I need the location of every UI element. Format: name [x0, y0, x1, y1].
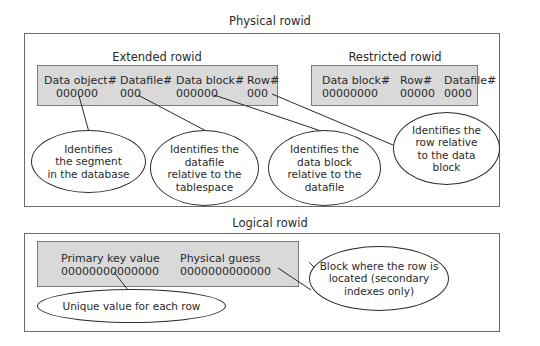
field-row: Row# 000 — [247, 74, 279, 100]
field-data-object: Data object# 000000 — [44, 74, 114, 100]
field-value: 00000000 — [322, 87, 390, 100]
field-label: Datafile# — [120, 74, 172, 87]
field-r-data-block: Data block# 00000000 — [322, 74, 390, 100]
field-value: 000000 — [44, 87, 114, 100]
field-label: Data object# — [44, 74, 117, 87]
field-physical-guess: Physical guess 0000000000000 — [180, 252, 271, 278]
field-r-row: Row# 00000 — [400, 74, 435, 100]
field-value: 0000 — [444, 87, 496, 100]
field-value: 00000 — [400, 87, 435, 100]
field-data-block: Data block# 000000 — [176, 74, 244, 100]
callout-data-block: Identifies thedata blockrelative to thed… — [268, 130, 381, 206]
field-primary-key: Primary key value 00000000000000 — [61, 252, 160, 278]
field-label: Row# — [400, 74, 432, 87]
callout-row: Identifies therow relativeto the datablo… — [393, 112, 500, 185]
field-datafile: Datafile# 000 — [120, 74, 172, 100]
callout-datafile: Identifies thedatafilerelative to thetab… — [150, 130, 259, 206]
field-r-datafile: Datafile# 0000 — [444, 74, 496, 100]
field-value: 00000000000000 — [61, 265, 160, 278]
callout-unique-value: Unique value for each row — [37, 289, 226, 323]
callout-block-location: Block where the row islocated (secondary… — [309, 246, 449, 311]
field-label: Row# — [247, 74, 279, 87]
logical-rowid-title: Logical rowid — [0, 216, 540, 230]
callout-segment: Identifiesthe segmentin the database — [31, 130, 146, 193]
field-label: Physical guess — [180, 252, 260, 265]
field-value: 000000 — [176, 87, 244, 100]
physical-rowid-title: Physical rowid — [0, 14, 540, 28]
field-value: 000 — [247, 87, 279, 100]
field-label: Data block# — [322, 74, 390, 87]
field-label: Datafile# — [444, 74, 496, 87]
field-value: 000 — [120, 87, 172, 100]
restricted-rowid-title: Restricted rowid — [310, 50, 480, 64]
field-label: Primary key value — [61, 252, 160, 265]
extended-rowid-title: Extended rowid — [37, 50, 277, 64]
field-value: 0000000000000 — [180, 265, 271, 278]
field-label: Data block# — [176, 74, 244, 87]
